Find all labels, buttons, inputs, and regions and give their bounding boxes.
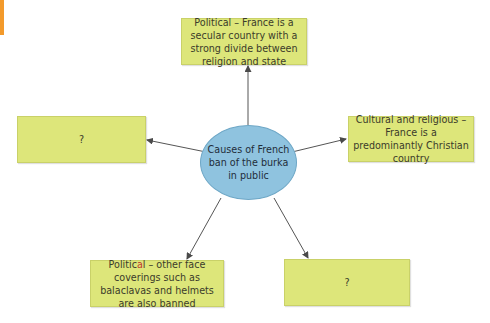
center-label: Causes of French ban of the burka in pub… [207, 143, 290, 182]
node-right-cultural-religious: Cultural and religious – France is a pre… [348, 116, 474, 162]
arrow-to-left [147, 140, 206, 152]
arrow-to-bottom-left [187, 198, 221, 259]
node-label: Political – other face coverings such as… [95, 258, 219, 310]
node-label: Political – France is a secular country … [186, 16, 302, 68]
node-label: ? [79, 133, 84, 146]
node-top-political-secular: Political – France is a secular country … [181, 18, 307, 65]
arrow-to-right [292, 139, 346, 152]
center-ellipse: Causes of French ban of the burka in pub… [200, 125, 297, 200]
node-label: Cultural and religious – France is a pre… [353, 113, 469, 165]
node-bottom-left-political-face-coverings: Political – other face coverings such as… [90, 260, 224, 307]
node-bottom-right-unknown: ? [284, 259, 410, 306]
node-label: ? [344, 276, 349, 289]
arrow-to-bottom-right [274, 198, 308, 258]
label-part: Politic [109, 259, 137, 270]
node-left-unknown: ? [17, 116, 146, 163]
